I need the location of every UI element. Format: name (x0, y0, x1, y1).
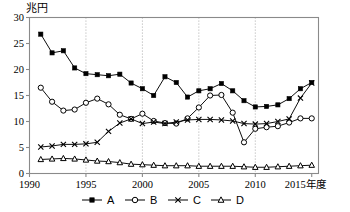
marker-open-circle (275, 124, 280, 129)
marker-open-circle (95, 96, 100, 101)
marker-filled-square (140, 87, 144, 91)
marker-open-circle (253, 126, 258, 131)
marker-filled-square (197, 89, 201, 93)
x-tick-label: 2010 (245, 179, 266, 190)
marker-open-circle (49, 99, 54, 104)
marker-filled-square (106, 74, 110, 78)
marker-filled-square (118, 72, 122, 76)
legend-label-B: B (150, 194, 157, 206)
marker-filled-square (39, 32, 43, 36)
y-tick-label: 15 (14, 90, 25, 101)
marker-filled-square (264, 104, 268, 108)
line-chart: 兆円 051015202530 199019952000200520102015… (0, 0, 350, 212)
y-axis-unit-label: 兆円 (26, 2, 48, 14)
x-tick-label: 1995 (75, 179, 96, 190)
marker-open-circle (151, 118, 156, 123)
marker-open-circle (72, 107, 77, 112)
x-tick-label: 1990 (19, 179, 40, 190)
marker-filled-square (163, 75, 167, 79)
x-tick-label: 2015年度 (285, 178, 327, 190)
marker-open-circle (309, 116, 314, 121)
marker-filled-square (253, 105, 257, 109)
marker-open-circle (61, 108, 66, 113)
marker-filled-square (276, 103, 280, 107)
marker-open-circle (241, 140, 246, 145)
marker-open-circle (83, 100, 88, 105)
marker-open-circle (196, 105, 201, 110)
x-tick-label: 2005 (188, 179, 209, 190)
y-tick-label: 5 (19, 142, 24, 153)
marker-filled-square (84, 72, 88, 76)
marker-filled-square (95, 73, 99, 77)
marker-filled-square (242, 99, 246, 103)
marker-open-circle (208, 93, 213, 98)
marker-filled-square (61, 49, 65, 53)
y-tick-label: 20 (14, 64, 25, 75)
marker-open-circle (219, 92, 224, 97)
legend-label-C: C (193, 194, 201, 206)
marker-open-circle (38, 85, 43, 90)
marker-filled-square (298, 87, 302, 91)
y-tick-label: 25 (14, 38, 25, 49)
marker-filled-square (129, 81, 133, 85)
y-tick-label: 10 (14, 116, 25, 127)
y-axis-unit-label-group: 兆円 (26, 2, 48, 14)
marker-filled-square (231, 89, 235, 93)
y-tick-label: 0 (19, 168, 24, 179)
legend-label-D: D (236, 194, 244, 206)
marker-filled-square (73, 66, 77, 70)
legend-label-A: A (107, 194, 115, 206)
y-tick-label: 30 (14, 12, 25, 23)
marker-open-circle (298, 116, 303, 121)
x-tick-label: 2000 (132, 179, 153, 190)
marker-open-circle (106, 102, 111, 107)
marker-open-circle (132, 197, 137, 202)
marker-open-circle (140, 111, 145, 116)
marker-filled-square (208, 87, 212, 91)
marker-filled-square (152, 93, 156, 97)
chart-container: 兆円 051015202530 199019952000200520102015… (0, 0, 350, 212)
marker-open-circle (117, 112, 122, 117)
marker-filled-square (185, 95, 189, 99)
marker-open-circle (230, 110, 235, 115)
marker-filled-square (219, 81, 223, 85)
marker-filled-square (174, 80, 178, 84)
marker-filled-square (287, 97, 291, 101)
marker-filled-square (90, 198, 94, 202)
marker-filled-square (50, 51, 54, 55)
